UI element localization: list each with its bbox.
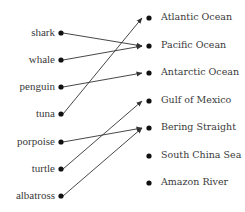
- animal-label: albatross: [16, 189, 55, 201]
- connection-arrow: [63, 101, 142, 169]
- connection-lines: [63, 18, 142, 196]
- connection-arrow: [63, 33, 142, 46]
- connection-arrow: [63, 128, 142, 196]
- location-dot[interactable]: [146, 98, 151, 103]
- animal-dot[interactable]: [58, 166, 63, 171]
- location-label: Antarctic Ocean: [161, 66, 239, 78]
- location-dot[interactable]: [146, 43, 151, 48]
- connection-arrow: [63, 18, 142, 114]
- animal-label: penguin: [20, 80, 55, 92]
- location-label: Amazon River: [161, 176, 228, 188]
- location-label: South China Sea: [161, 149, 241, 161]
- animal-label: shark: [31, 26, 55, 38]
- location-dot[interactable]: [146, 125, 151, 130]
- animal-label: turtle: [32, 162, 55, 174]
- location-dot[interactable]: [146, 153, 151, 158]
- animal-dot[interactable]: [58, 84, 63, 89]
- location-label: Gulf of Mexico: [161, 94, 231, 106]
- location-label: Bering Straight: [161, 121, 236, 133]
- animal-dot[interactable]: [58, 111, 63, 116]
- location-label: Pacific Ocean: [161, 39, 226, 51]
- location-label: Atlantic Ocean: [161, 11, 232, 23]
- connection-arrow: [63, 46, 142, 60]
- animal-label: whale: [29, 53, 55, 65]
- location-dot[interactable]: [146, 15, 151, 20]
- animal-dot[interactable]: [58, 139, 63, 144]
- location-dot[interactable]: [146, 70, 151, 75]
- animal-dot[interactable]: [58, 30, 63, 35]
- animal-dot[interactable]: [58, 57, 63, 62]
- animal-label: porpoise: [17, 135, 55, 147]
- animal-label: tuna: [36, 107, 55, 119]
- dots: [58, 15, 151, 198]
- animal-dot[interactable]: [58, 193, 63, 198]
- connection-arrow: [63, 73, 142, 87]
- location-dot[interactable]: [146, 180, 151, 185]
